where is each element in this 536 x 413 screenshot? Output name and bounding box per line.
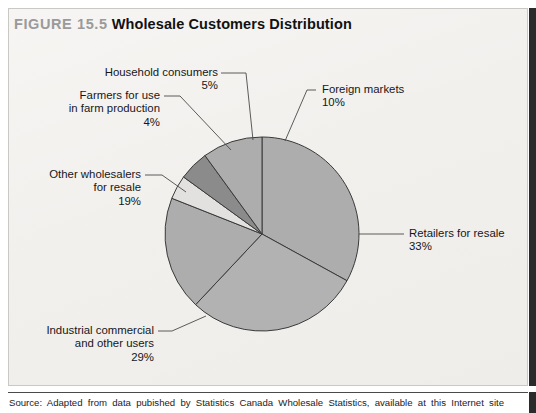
footer-divider [8, 392, 528, 393]
callout-wholesalers-percent: 19% [0, 195, 141, 208]
page-title: Wholesale Customers Distribution [112, 16, 352, 32]
callout-industrial-label-line2: and other users [75, 337, 154, 349]
callout-farmers-label-line1: Farmers for use [80, 89, 160, 101]
callout-other-wholesalers: Other wholesalers for resale 19% [0, 168, 141, 208]
callout-foreign-label: Foreign markets [322, 83, 404, 95]
callout-farmers-farm-production: Farmers for use in farm production 4% [2, 89, 160, 129]
callout-wholesalers-label-line2: for resale [94, 181, 141, 193]
callout-industrial-commercial: Industrial commercial and other users 29… [0, 324, 154, 364]
panel-right-accent-bar [529, 8, 536, 386]
callout-retailers-resale: Retailers for resale 33% [409, 227, 505, 254]
callout-foreign-percent: 10% [322, 96, 404, 109]
callout-retailers-label: Retailers for resale [409, 227, 505, 239]
callout-farmers-percent: 4% [2, 116, 160, 129]
callout-retailers-percent: 33% [409, 240, 505, 253]
callout-farmers-label-line2: in farm production [69, 102, 160, 114]
footer-right-accent-bar [529, 392, 536, 413]
callout-wholesalers-label-line1: Other wholesalers [49, 168, 141, 180]
callout-foreign-markets: Foreign markets 10% [322, 83, 404, 110]
figure-container: FIGURE 15.5 Wholesale Customers Distribu… [0, 0, 536, 413]
source-note: Source: Adapted from data pubished by St… [9, 397, 527, 409]
figure-title: FIGURE 15.5 Wholesale Customers Distribu… [14, 16, 352, 32]
callout-household-label: Household consumers [105, 66, 218, 78]
callout-industrial-percent: 29% [0, 351, 154, 364]
callout-industrial-label-line1: Industrial commercial [46, 324, 154, 336]
figure-number: FIGURE 15.5 [14, 16, 108, 32]
